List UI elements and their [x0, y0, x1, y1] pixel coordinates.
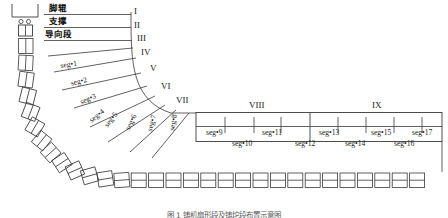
label-guide-section: 导向段	[45, 30, 72, 39]
divider-seg6	[108, 105, 165, 142]
roman-numeral-II: II	[134, 21, 140, 30]
straight-segment-label-11: seg•11	[262, 129, 282, 137]
straight-segment-label-10: seg•10	[232, 140, 252, 148]
label-foot-roll: 脚辊	[49, 4, 67, 13]
zone-label-IX: IX	[372, 101, 382, 110]
strand-segment-chain	[18, 39, 425, 188]
label-support: 支撑	[49, 17, 67, 26]
straight-segment-label-15: seg•15	[371, 129, 391, 137]
roman-numeral-V: V	[150, 64, 157, 73]
divider-seg1	[48, 48, 133, 56]
straight-segment-label-16: seg•16	[394, 140, 414, 148]
roman-numeral-IV: IV	[141, 48, 151, 57]
figure-caption: 图 1 铸机扇形段及铸坨段布置示意图	[0, 209, 448, 218]
straight-segment-label-9: seg•9	[206, 129, 223, 137]
roman-numeral-I: I	[134, 7, 137, 16]
figure-caption-text: 铸机扇形段及铸坨段布置示意图	[183, 211, 281, 218]
straight-segment-label-14: seg•14	[345, 140, 365, 148]
figure-number: 图 1	[167, 211, 181, 218]
roman-numeral-VI: VI	[161, 82, 171, 91]
roman-numeral-VII: VII	[176, 96, 189, 105]
mould-assembly	[12, 4, 38, 36]
straight-segment-label-13: seg•13	[319, 129, 339, 137]
straight-segment-label-17: seg•17	[412, 129, 432, 137]
straight-segment-label-12: seg•12	[295, 140, 315, 148]
figure-canvas: 脚辊 支撑 导向段 I II III IV V VI VII seg•1 seg…	[0, 0, 448, 218]
roman-numeral-III: III	[137, 34, 146, 43]
zone-label-VIII: VIII	[249, 101, 265, 110]
